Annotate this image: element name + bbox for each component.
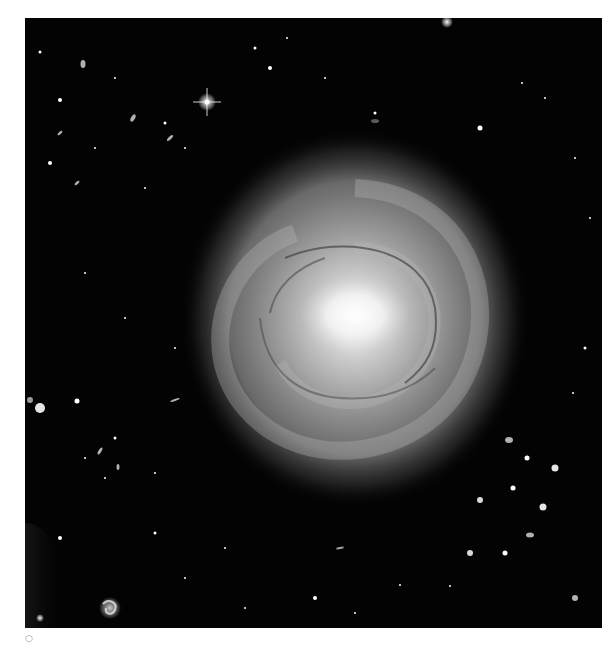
- caption-mark: ○: [25, 633, 33, 643]
- galaxy-photo: [25, 18, 602, 628]
- galaxy-image: [25, 18, 602, 628]
- page: ○: [0, 0, 611, 649]
